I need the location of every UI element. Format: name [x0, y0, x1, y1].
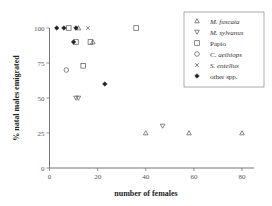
y-tick-label: 0 [41, 165, 45, 173]
data-point-m-fuscata [187, 131, 192, 135]
y-axis-title: % natal males emigrated [12, 55, 21, 141]
scatter-chart: 0255075100 020406080 number of females %… [0, 0, 272, 206]
legend-label-papio: Papio [210, 40, 226, 48]
x-tick-label: 0 [48, 173, 52, 181]
y-axis: 0255075100 [34, 25, 50, 173]
data-point-papio [66, 26, 71, 31]
x-tick-label: 80 [239, 173, 247, 181]
legend-label-m-fuscata: M. fuscata [209, 18, 240, 26]
legend-label-c-aethiops: C. aethiops [210, 51, 242, 59]
x-tick-label: 40 [142, 173, 150, 181]
data-point-other-spp [71, 40, 76, 45]
data-point-other-spp [103, 82, 108, 87]
data-point-s-entellus [86, 26, 90, 30]
legend-label-s-entellus: S. entellus [210, 62, 239, 70]
y-tick-label: 100 [34, 25, 45, 33]
data-point-other-spp [54, 26, 59, 31]
data-point-m-fuscata [240, 131, 245, 135]
y-tick-label: 25 [38, 130, 46, 138]
x-axis-title: number of females [114, 189, 177, 198]
legend-label-m-sylvanus: M. sylvanus [209, 29, 244, 37]
x-tick-label: 60 [190, 173, 198, 181]
data-point-papio [81, 64, 86, 69]
data-point-papio [134, 26, 139, 31]
data-point-m-fuscata [143, 131, 148, 135]
data-point-other-spp [62, 26, 67, 31]
x-tick-label: 20 [94, 173, 102, 181]
legend: M. fuscataM. sylvanusPapioC. aethiopsS. … [184, 12, 264, 87]
y-tick-label: 50 [38, 95, 46, 103]
data-point-c-aethiops [64, 68, 69, 73]
legend-label-other-spp: other spp. [210, 73, 238, 81]
x-axis: 020406080 [48, 168, 254, 181]
data-point-m-sylvanus [160, 124, 165, 128]
y-tick-label: 75 [38, 60, 46, 68]
